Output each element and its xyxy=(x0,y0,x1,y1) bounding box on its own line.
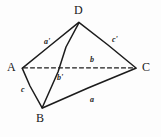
tetrahedron-figure: A B C D a' c' b b' c a xyxy=(0,0,161,137)
vertex-label-a: A xyxy=(7,61,16,73)
edge-ad xyxy=(22,22,78,68)
edge-label-ab: c xyxy=(21,86,25,94)
edge-group xyxy=(22,22,136,108)
vertex-label-d: D xyxy=(74,4,83,16)
edge-label-bd: b' xyxy=(57,74,63,82)
edge-label-dc: c' xyxy=(112,36,118,44)
edge-ab xyxy=(22,68,42,107)
edge-label-bc: a xyxy=(90,96,94,104)
edge-label-ac: b xyxy=(90,56,94,64)
vertex-label-c: C xyxy=(142,61,150,73)
vertex-label-b: B xyxy=(36,112,44,124)
edge-label-ad: a' xyxy=(44,38,50,46)
edge-dc xyxy=(79,23,136,68)
tetrahedron-line-art xyxy=(0,0,161,137)
